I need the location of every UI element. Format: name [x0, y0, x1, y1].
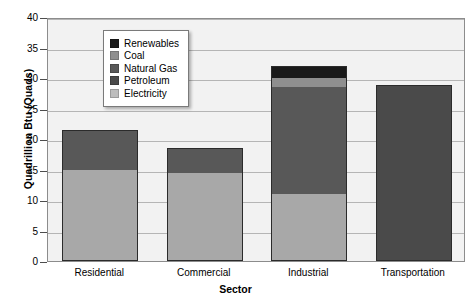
chart-legend: RenewablesCoalNatural GasPetroleumElectr…: [103, 30, 189, 107]
bar-segment-natural-gas: [271, 87, 347, 194]
x-axis-title: Sector: [0, 283, 471, 295]
bar-segment-electricity: [167, 173, 243, 261]
bar-stack: [376, 85, 452, 261]
y-axis-tick-mark: [40, 171, 47, 172]
legend-item: Natural Gas: [110, 63, 179, 74]
x-axis-label: Industrial: [288, 267, 329, 278]
x-axis-label: Commercial: [177, 267, 230, 278]
y-axis-tick-mark: [40, 79, 47, 80]
bar-segment-electricity: [62, 170, 138, 262]
bar-chart: Quadrillion Btu (Quads) 0510152025303540…: [0, 0, 471, 301]
y-axis-tick-mark: [40, 18, 47, 19]
y-axis-tick-mark: [40, 49, 47, 50]
legend-swatch-icon: [110, 39, 119, 48]
legend-label: Coal: [124, 50, 145, 61]
bar-segment-natural-gas: [62, 130, 138, 170]
x-axis-label: Transportation: [381, 267, 445, 278]
legend-item: Renewables: [110, 38, 179, 49]
y-axis-tick-mark: [40, 201, 47, 202]
legend-swatch-icon: [110, 64, 119, 73]
y-axis-tick-mark: [40, 262, 47, 263]
y-axis-tick-label: 35: [12, 43, 38, 54]
legend-label: Petroleum: [124, 75, 170, 86]
y-axis-tick-label: 5: [12, 226, 38, 237]
y-axis-tick-label: 0: [12, 256, 38, 267]
legend-item: Electricity: [110, 88, 179, 99]
gridline: [48, 19, 464, 20]
legend-swatch-icon: [110, 76, 119, 85]
bar-stack: [167, 148, 243, 261]
y-axis-tick-label: 30: [12, 73, 38, 84]
y-axis-tick-mark: [40, 110, 47, 111]
bar-segment-renewables: [271, 66, 347, 78]
bar-segment-petroleum: [376, 85, 452, 261]
bar-segment-natural-gas: [167, 148, 243, 172]
y-axis-tick-label: 15: [12, 165, 38, 176]
legend-swatch-icon: [110, 51, 119, 60]
y-axis-tick-label: 10: [12, 195, 38, 206]
legend-item: Petroleum: [110, 75, 179, 86]
y-axis-tick-label: 40: [12, 12, 38, 23]
x-axis-label: Residential: [75, 267, 124, 278]
y-axis-tick-mark: [40, 232, 47, 233]
legend-label: Natural Gas: [124, 63, 177, 74]
y-axis-tick-label: 25: [12, 104, 38, 115]
bar-stack: [271, 66, 347, 261]
y-axis-tick-label: 20: [12, 134, 38, 145]
legend-item: Coal: [110, 50, 179, 61]
y-axis-title: Quadrillion Btu (Quads): [22, 44, 34, 214]
bar-stack: [62, 130, 138, 261]
y-axis-tick-mark: [40, 140, 47, 141]
bar-segment-electricity: [271, 194, 347, 261]
legend-label: Electricity: [124, 88, 167, 99]
legend-swatch-icon: [110, 89, 119, 98]
bar-segment-coal: [271, 78, 347, 87]
legend-label: Renewables: [124, 38, 179, 49]
